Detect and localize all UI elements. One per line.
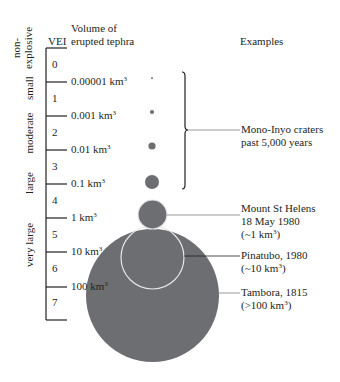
- diagram-graphics: [0, 0, 340, 382]
- example-line: Mount St Helens: [241, 202, 316, 215]
- vei-level-4: 4: [52, 194, 58, 207]
- vei-level-1: 1: [52, 92, 58, 105]
- volume-label: 10 km3: [71, 245, 102, 258]
- volume-header-line2: erupted tephra: [71, 35, 134, 48]
- dot-vei4: [145, 175, 159, 189]
- vei-level-6: 6: [52, 262, 58, 275]
- category-very-large: very large: [23, 223, 35, 267]
- examples-header: Examples: [240, 35, 283, 48]
- volume-label: 1 km3: [71, 211, 97, 224]
- volume-label: 0.001 km3: [71, 109, 116, 122]
- example-line: Pinatubo, 1980: [241, 249, 308, 262]
- st-helens-circle: [138, 200, 167, 229]
- volume-header-line1: Volume of: [71, 22, 117, 35]
- example-line: (~10 km3): [241, 262, 308, 275]
- category-line: non-: [10, 27, 22, 69]
- vei-level-3: 3: [52, 160, 58, 173]
- example-line: Mono-Inyo craters: [241, 123, 323, 136]
- volume-label: 100 km3: [71, 280, 108, 293]
- example-pinatubo: Pinatubo, 1980 (~10 km3): [241, 249, 308, 275]
- category-large: large: [23, 172, 35, 194]
- volume-label: 0.00001 km3: [71, 75, 127, 88]
- tambora-circle: [86, 229, 219, 362]
- vei-axis: [46, 48, 67, 320]
- dot-vei2: [150, 110, 154, 114]
- category-moderate: moderate: [23, 113, 35, 154]
- volume-label: 0.01 km3: [71, 143, 111, 156]
- example-line: 18 May 1980: [241, 215, 316, 228]
- dot-vei3: [148, 142, 155, 149]
- example-tambora: Tambora, 1815 (>100 km3): [241, 286, 307, 312]
- mono-inyo-bracket: [182, 72, 188, 189]
- vei-header: VEI: [48, 35, 66, 48]
- vei-level-5: 5: [52, 228, 58, 241]
- vei-level-0: 0: [52, 58, 58, 71]
- example-mono-inyo: Mono-Inyo craters past 5,000 years: [241, 123, 323, 149]
- example-line: (>100 km3): [241, 299, 307, 312]
- category-small: small: [23, 76, 35, 100]
- dot-vei1: [151, 77, 153, 79]
- volume-label: 0.1 km3: [71, 177, 105, 190]
- example-line: Tambora, 1815: [241, 286, 307, 299]
- vei-level-2: 2: [52, 126, 58, 139]
- example-line: (~1 km3): [241, 228, 316, 241]
- example-st-helens: Mount St Helens 18 May 1980 (~1 km3): [241, 202, 316, 241]
- category-non-explosive: non- explosive: [10, 27, 34, 69]
- category-line: explosive: [22, 27, 34, 69]
- example-line: past 5,000 years: [241, 136, 323, 149]
- vei-level-7: 7: [52, 296, 58, 309]
